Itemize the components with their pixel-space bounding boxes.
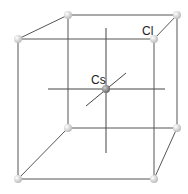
cl-label: Cl	[142, 24, 153, 38]
cl-atom	[64, 124, 72, 132]
cs-label: Cs	[91, 73, 106, 87]
cl-atom	[64, 11, 72, 19]
cl-atom	[173, 11, 181, 19]
cl-atom	[14, 35, 22, 43]
cl-atom	[150, 175, 158, 183]
cscl-unit-cell-diagram: Cl Cs	[0, 0, 188, 194]
cl-atom	[14, 175, 22, 183]
cl-atom	[173, 124, 181, 132]
